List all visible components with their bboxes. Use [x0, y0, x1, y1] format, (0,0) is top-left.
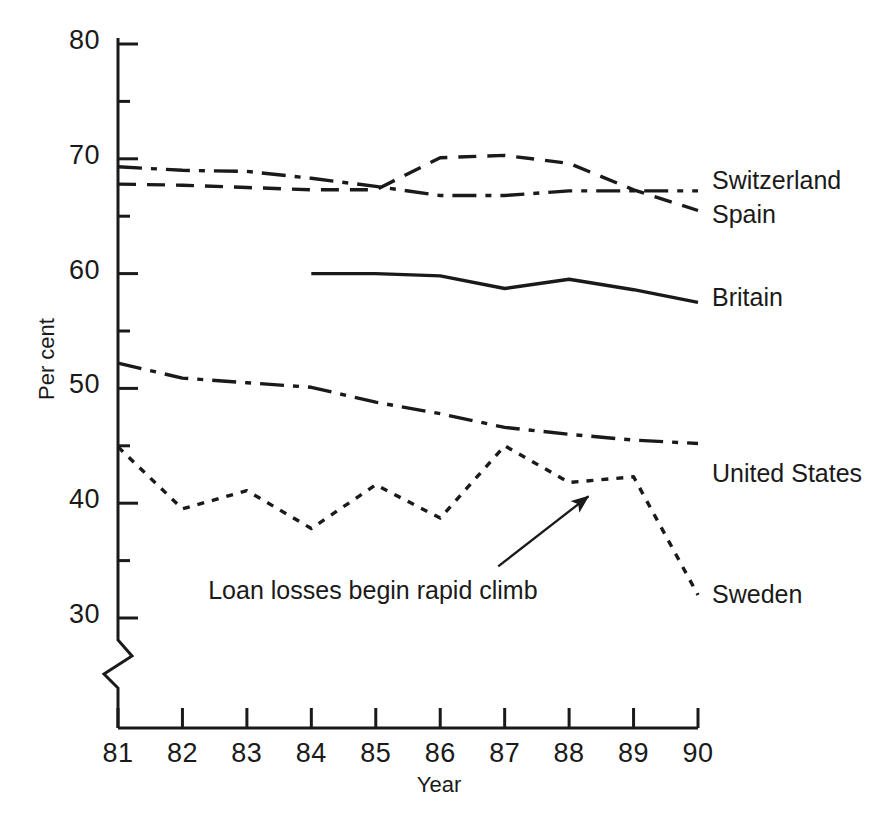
- x-axis-ticks: [118, 708, 698, 728]
- series-label-britain: Britain: [712, 283, 783, 312]
- y-tick-label: 60: [40, 255, 100, 286]
- annotation-arrow: [498, 496, 588, 566]
- x-tick-label: 87: [475, 738, 535, 769]
- series-line-britain: [311, 274, 698, 303]
- y-tick-label: 30: [40, 599, 100, 630]
- annotation-text: Loan losses begin rapid climb: [208, 576, 537, 605]
- y-tick-label: 70: [40, 140, 100, 171]
- line-chart: 30 40 50 60 70 80 81 82 83 84 85 86 87 8…: [0, 0, 878, 826]
- series-line-sweden: [118, 446, 698, 595]
- y-axis-ticks: [118, 44, 138, 618]
- data-series-group: [118, 155, 698, 595]
- series-line-spain: [118, 155, 698, 210]
- series-label-united-states: United States: [712, 459, 862, 488]
- y-tick-label: 80: [40, 25, 100, 56]
- plot-area: [0, 0, 878, 826]
- x-tick-label: 89: [604, 738, 664, 769]
- y-tick-label: 40: [40, 484, 100, 515]
- x-tick-label: 81: [88, 738, 148, 769]
- x-tick-label: 85: [346, 738, 406, 769]
- annotation-arrow-line: [498, 496, 588, 566]
- x-tick-label: 86: [410, 738, 470, 769]
- y-axis-line: [104, 38, 132, 728]
- series-label-switzerland: Switzerland: [712, 166, 841, 195]
- axis-lines: [104, 38, 698, 728]
- series-line-united-states: [118, 363, 698, 443]
- series-label-spain: Spain: [712, 200, 776, 229]
- x-axis-title: Year: [0, 772, 878, 798]
- x-tick-label: 82: [152, 738, 212, 769]
- x-tick-label: 84: [281, 738, 341, 769]
- x-tick-label: 90: [668, 738, 728, 769]
- x-tick-label: 83: [217, 738, 277, 769]
- y-axis-title: Per cent: [34, 318, 60, 400]
- series-label-sweden: Sweden: [712, 580, 802, 609]
- x-tick-label: 88: [539, 738, 599, 769]
